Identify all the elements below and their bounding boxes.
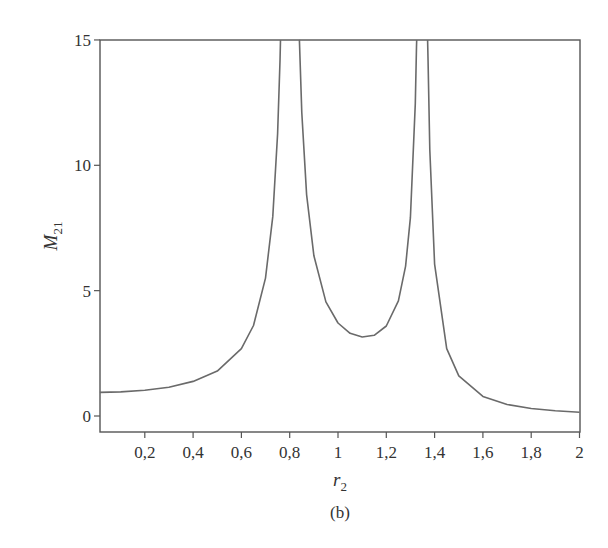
y-tick-label: 15 [74, 31, 91, 50]
x-axis-label-subscript: 2 [340, 479, 347, 494]
y-axis-ticks: 051015 [74, 31, 100, 426]
x-tick-label: 0,2 [134, 443, 155, 462]
y-axis-label-subscript: 21 [50, 222, 65, 235]
y-tick-label: 0 [83, 407, 92, 426]
curve-segment [100, 40, 281, 393]
x-axis-ticks: 0,20,40,60,811,21,41,61,82 [134, 432, 584, 462]
curve-segment [299, 40, 416, 337]
x-tick-label: 1,8 [521, 443, 542, 462]
x-axis-label: r2 [333, 469, 347, 494]
y-axis-label-main: M [40, 233, 61, 251]
x-tick-label: 0,8 [279, 443, 300, 462]
x-tick-label: 1,6 [472, 443, 493, 462]
x-tick-label: 1,4 [424, 443, 446, 462]
y-tick-label: 10 [74, 156, 91, 175]
x-tick-label: 1,2 [376, 443, 397, 462]
m21-curve [100, 40, 580, 412]
x-tick-label: 0,6 [231, 443, 252, 462]
figure-caption: (b) [330, 503, 350, 522]
y-tick-label: 5 [83, 282, 92, 301]
plot-area-border [100, 40, 580, 432]
x-tick-label: 2 [575, 443, 584, 462]
y-axis-label: M21 [40, 222, 65, 252]
chart: 051015 0,20,40,60,811,21,41,61,82 M21 r2… [0, 0, 608, 548]
x-tick-label: 1 [334, 443, 343, 462]
plot-frame [100, 40, 580, 432]
curve-segment [428, 40, 580, 412]
x-tick-label: 0,4 [182, 443, 204, 462]
